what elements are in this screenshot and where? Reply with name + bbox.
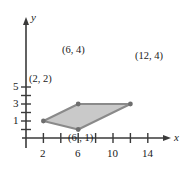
vertex-dot-6-4 [76,102,81,107]
x-tick-label-6: 6 [75,148,81,159]
y-tick-label-1: 1 [13,115,19,126]
point-label-6-4: (6, 4) [62,45,85,56]
x-axis-name: x [174,132,179,143]
x-tick-label-14: 14 [142,148,153,159]
vertex-dot-12-4 [128,102,133,107]
y-tick-label-5: 5 [13,81,19,92]
plot-canvas [0,0,185,170]
coordinate-plane-figure: y x 5 3 1 2 6 10 14 (2, 2) (6, 4) (12, 4… [0,0,185,170]
x-axis-arrowhead [163,135,171,141]
x-tick-label-10: 10 [107,148,118,159]
vertex-dot-2-2 [41,119,46,124]
y-tick-label-3: 3 [13,98,19,109]
point-label-6-1: (6 , 1) [68,133,93,144]
point-label-12-4: (12, 4) [135,51,163,62]
y-axis-arrowhead [23,17,29,25]
x-tick-label-2: 2 [40,148,46,159]
point-label-2-2: (2, 2) [29,74,52,85]
y-axis-name: y [31,12,36,23]
shaded-quadrilateral [43,104,130,130]
